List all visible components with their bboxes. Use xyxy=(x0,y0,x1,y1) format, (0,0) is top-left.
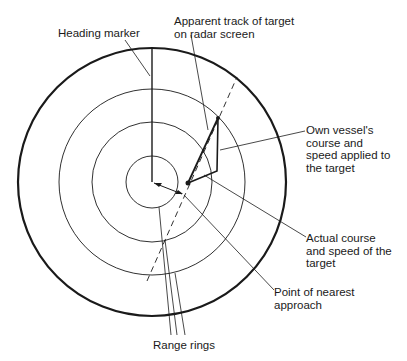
label-range-rings: Range rings xyxy=(153,339,215,352)
label-heading-marker: Heading marker xyxy=(58,27,140,40)
label-nearest-approach: Point of nearest approach xyxy=(274,286,355,311)
leader-actual-course xyxy=(204,175,306,237)
leader-own-vessel xyxy=(220,131,305,150)
leader-apparent-track xyxy=(191,35,208,130)
label-own-vessel: Own vessel's course and speed applied to… xyxy=(306,124,390,174)
label-actual-course: Actual course and speed of the target xyxy=(306,232,392,270)
label-apparent-track: Apparent track of target on radar screen xyxy=(174,15,294,40)
center-arrowhead-icon xyxy=(154,183,162,187)
apparent-track-dashed-line xyxy=(147,77,237,281)
vector-tip-dot xyxy=(216,116,220,120)
leader-range-ring-3 xyxy=(175,273,185,335)
leader-heading xyxy=(125,40,150,76)
target-position-dot xyxy=(186,181,191,186)
